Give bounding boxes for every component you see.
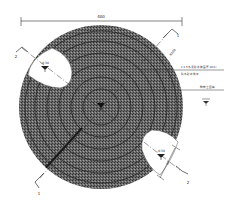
leader-note-1-line2: 防水砂浆找平 bbox=[181, 72, 199, 76]
leader-note-2-text: 种植土回填 bbox=[200, 85, 215, 89]
elevation-mark-right bbox=[202, 99, 210, 106]
radius-dimension-label: R200 bbox=[169, 48, 177, 57]
section-mark-1-top: 1 bbox=[177, 33, 180, 38]
section-mark-2-top: 2 bbox=[15, 54, 18, 59]
elevation-triangle-icon bbox=[203, 101, 209, 104]
section-mark-1-bottom: 1 bbox=[38, 191, 41, 196]
overall-dimension: 400 bbox=[21, 14, 182, 26]
plan-drawing: 400 1 1 2 2 R200 bbox=[0, 0, 234, 207]
section-mark-2-bottom: 2 bbox=[187, 180, 190, 185]
overall-dimension-label: 400 bbox=[97, 14, 105, 19]
leader-note-1-line1: 1:2.5水泥砂浆抹面 厚20(1) bbox=[181, 65, 216, 69]
elevation-label-lower-right: -0.50 bbox=[157, 149, 165, 153]
elevation-label-upper-left: -0.30 bbox=[41, 61, 49, 65]
